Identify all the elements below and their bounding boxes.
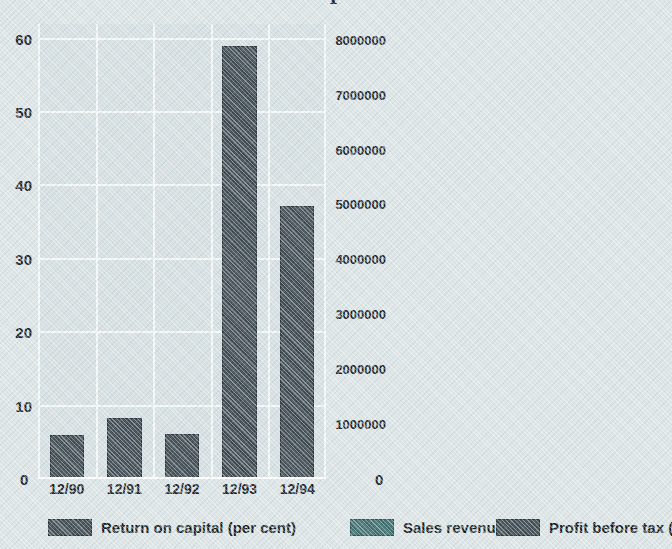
chart-panel-sales-and-profit: 12/9012/9112/9212/9312/94 xyxy=(336,0,672,500)
y-axis-tick-label: 6000000 xyxy=(335,142,386,157)
x-axis-tick-label: 12/93 xyxy=(222,481,257,497)
y-axis-left: 102030405060 xyxy=(0,0,32,500)
chart-figure: P 102030405060 0 12/9012/9112/9212/9312/… xyxy=(0,0,672,549)
bar xyxy=(280,206,315,479)
legend-left: Return on capital (per cent) xyxy=(0,519,336,545)
y-axis-tick-label: 10 xyxy=(15,397,32,414)
gridline-horizontal xyxy=(38,38,326,40)
y-axis-tick-label: 3000000 xyxy=(335,307,386,322)
y-axis-zero-label-right: 0 xyxy=(375,471,383,488)
legend-label: Profit before tax (£000s) xyxy=(549,519,672,536)
x-axis-left: 12/9012/9112/9212/9312/94 xyxy=(38,481,326,501)
bar xyxy=(50,435,85,479)
gridline-horizontal xyxy=(38,184,326,186)
gridline-vertical xyxy=(268,24,270,479)
y-axis-tick-label: 5000000 xyxy=(335,197,386,212)
x-axis-tick-label: 12/90 xyxy=(49,481,84,497)
legend-swatch xyxy=(350,519,394,536)
y-axis-tick-label: 2000000 xyxy=(335,362,386,377)
legend-label: Return on capital (per cent) xyxy=(101,519,296,536)
y-axis-tick-label: 30 xyxy=(15,250,32,267)
legend-item: Profit before tax (£000s) xyxy=(496,519,672,536)
y-axis-tick-label: 20 xyxy=(15,324,32,341)
y-axis-tick-label: 40 xyxy=(15,177,32,194)
legend-swatch xyxy=(496,519,540,536)
chart-panel-return-on-capital: 102030405060 0 12/9012/9112/9212/9312/94 xyxy=(0,0,336,500)
gridline-vertical xyxy=(153,24,155,479)
x-axis-tick-label: 12/94 xyxy=(280,481,315,497)
x-axis-tick-label: 12/92 xyxy=(164,481,199,497)
bar xyxy=(222,46,257,479)
gridline-vertical xyxy=(38,24,40,479)
y-axis-tick-label: 1000000 xyxy=(335,417,386,432)
bar xyxy=(165,434,200,479)
gridline-vertical xyxy=(96,24,98,479)
bar xyxy=(107,418,142,479)
plot-area-left xyxy=(38,24,326,479)
legend-swatch xyxy=(48,519,92,536)
y-axis-tick-label: 7000000 xyxy=(335,87,386,102)
legend-item: Return on capital (per cent) xyxy=(48,519,296,536)
x-axis-tick-label: 12/91 xyxy=(107,481,142,497)
y-axis-tick-label: 4000000 xyxy=(335,252,386,267)
legend-right: Sales revenueProfit before tax (£000s) xyxy=(336,519,672,545)
y-axis-tick-label: 60 xyxy=(15,30,32,47)
legend-label: Sales revenue xyxy=(403,519,504,536)
y-axis-right: 1000000200000030000004000000500000060000… xyxy=(336,0,386,500)
legend-item: Sales revenue xyxy=(350,519,504,536)
gridline-vertical xyxy=(211,24,213,479)
gridline-vertical xyxy=(324,24,326,479)
y-axis-tick-label: 50 xyxy=(15,104,32,121)
y-axis-zero-label-left: 0 xyxy=(20,471,28,488)
axis-baseline-left xyxy=(38,477,326,479)
y-axis-tick-label: 8000000 xyxy=(335,32,386,47)
gridline-horizontal xyxy=(38,111,326,113)
